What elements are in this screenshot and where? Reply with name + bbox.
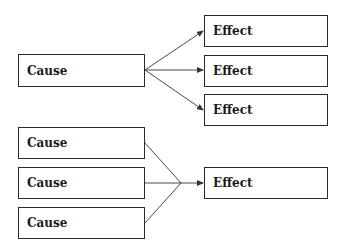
- cause-box: Cause: [18, 54, 145, 87]
- cause-box-3: Cause: [18, 207, 145, 239]
- effect-label: Effect: [213, 64, 252, 78]
- cause-label: Cause: [27, 136, 67, 150]
- effect-box-1: Effect: [204, 15, 328, 47]
- cause-label: Cause: [27, 64, 67, 78]
- cause-label: Cause: [27, 216, 67, 230]
- line-from-cause-3: [145, 183, 181, 223]
- effect-box-2: Effect: [204, 55, 328, 87]
- effect-box-3: Effect: [204, 94, 328, 126]
- arrow-to-effect-3: [145, 70, 203, 110]
- effect-label: Effect: [213, 103, 252, 117]
- effect-label: Effect: [213, 176, 252, 190]
- cause-label: Cause: [27, 176, 67, 190]
- effect-box: Effect: [204, 167, 328, 199]
- cause-box-2: Cause: [18, 167, 145, 199]
- arrow-to-effect-1: [145, 31, 203, 70]
- effect-label: Effect: [213, 24, 252, 38]
- cause-box-1: Cause: [18, 127, 145, 159]
- line-from-cause-1: [145, 143, 181, 183]
